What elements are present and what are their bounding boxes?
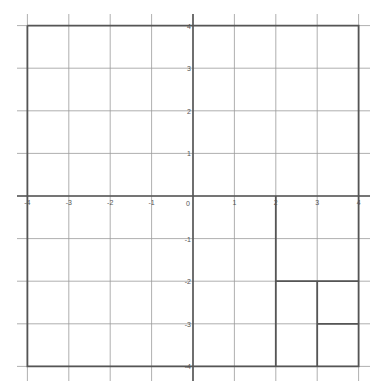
y-tick-label: 4 <box>187 23 191 30</box>
x-tick-label: 1 <box>232 199 236 206</box>
x-tick-label: -1 <box>148 199 154 206</box>
y-tick-label: -1 <box>185 236 191 243</box>
x-tick-label: -4 <box>24 199 30 206</box>
y-tick-label: -3 <box>185 321 191 328</box>
x-tick-label: -3 <box>66 199 72 206</box>
origin-label: 0 <box>186 200 190 207</box>
x-tick-label: 2 <box>274 199 278 206</box>
y-tick-label: -2 <box>185 278 191 285</box>
x-tick-label: 3 <box>315 199 319 206</box>
y-tick-label: 3 <box>187 65 191 72</box>
y-tick-label: 2 <box>187 108 191 115</box>
x-tick-label: 4 <box>357 199 361 206</box>
y-tick-label: -4 <box>185 363 191 370</box>
coordinate-plane: -4-3-2-1012344321-1-2-3-4 <box>0 0 386 390</box>
x-tick-label: -2 <box>107 199 113 206</box>
y-tick-label: 1 <box>187 150 191 157</box>
